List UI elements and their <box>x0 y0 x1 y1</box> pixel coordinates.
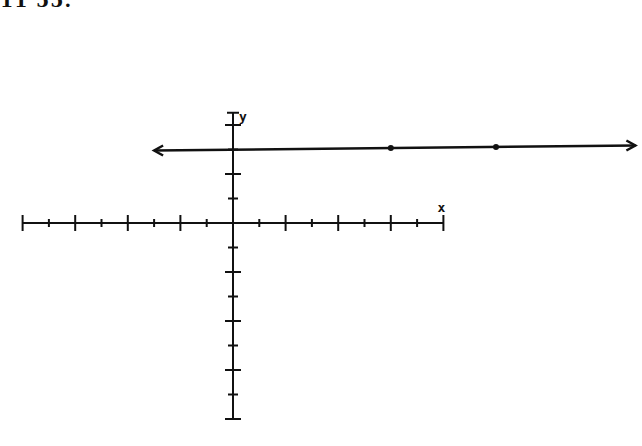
coordinate-plane: x y <box>0 0 642 446</box>
data-point <box>493 144 499 150</box>
axes <box>23 113 444 419</box>
data-series <box>154 141 635 156</box>
data-point <box>388 145 394 151</box>
y-axis-label: y <box>239 109 247 124</box>
x-axis-label: x <box>437 200 445 215</box>
line-y-equals-3 <box>154 146 635 151</box>
